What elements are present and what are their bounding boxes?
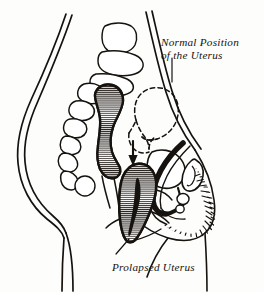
illustration-canvas: Normal Position of the Uterus Prolapsed … [0, 0, 264, 292]
anatomy-figure: Normal Position of the Uterus Prolapsed … [0, 0, 264, 292]
label-normal-position-line1: Normal Position [160, 36, 239, 48]
label-normal-position-line2: of the Uterus [161, 49, 223, 61]
label-prolapsed-uterus: Prolapsed Uterus [111, 261, 195, 273]
coccyx [75, 176, 95, 196]
